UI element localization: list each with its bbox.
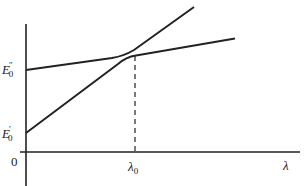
label-E0-prime: E′0 xyxy=(2,125,12,143)
x-axis-label-lambda: λ xyxy=(283,159,289,172)
E0-double-prime-subscript: 0 xyxy=(9,69,14,79)
label-lambda0: λ0 xyxy=(128,160,138,176)
upper-branch-curve xyxy=(26,7,194,70)
origin-label: 0 xyxy=(11,154,18,170)
label-E0-double-prime: E″0 xyxy=(2,61,13,79)
energy-diagram xyxy=(0,0,305,186)
E0-prime-subscript: 0 xyxy=(8,133,13,143)
lambda0-subscript: 0 xyxy=(134,166,139,176)
